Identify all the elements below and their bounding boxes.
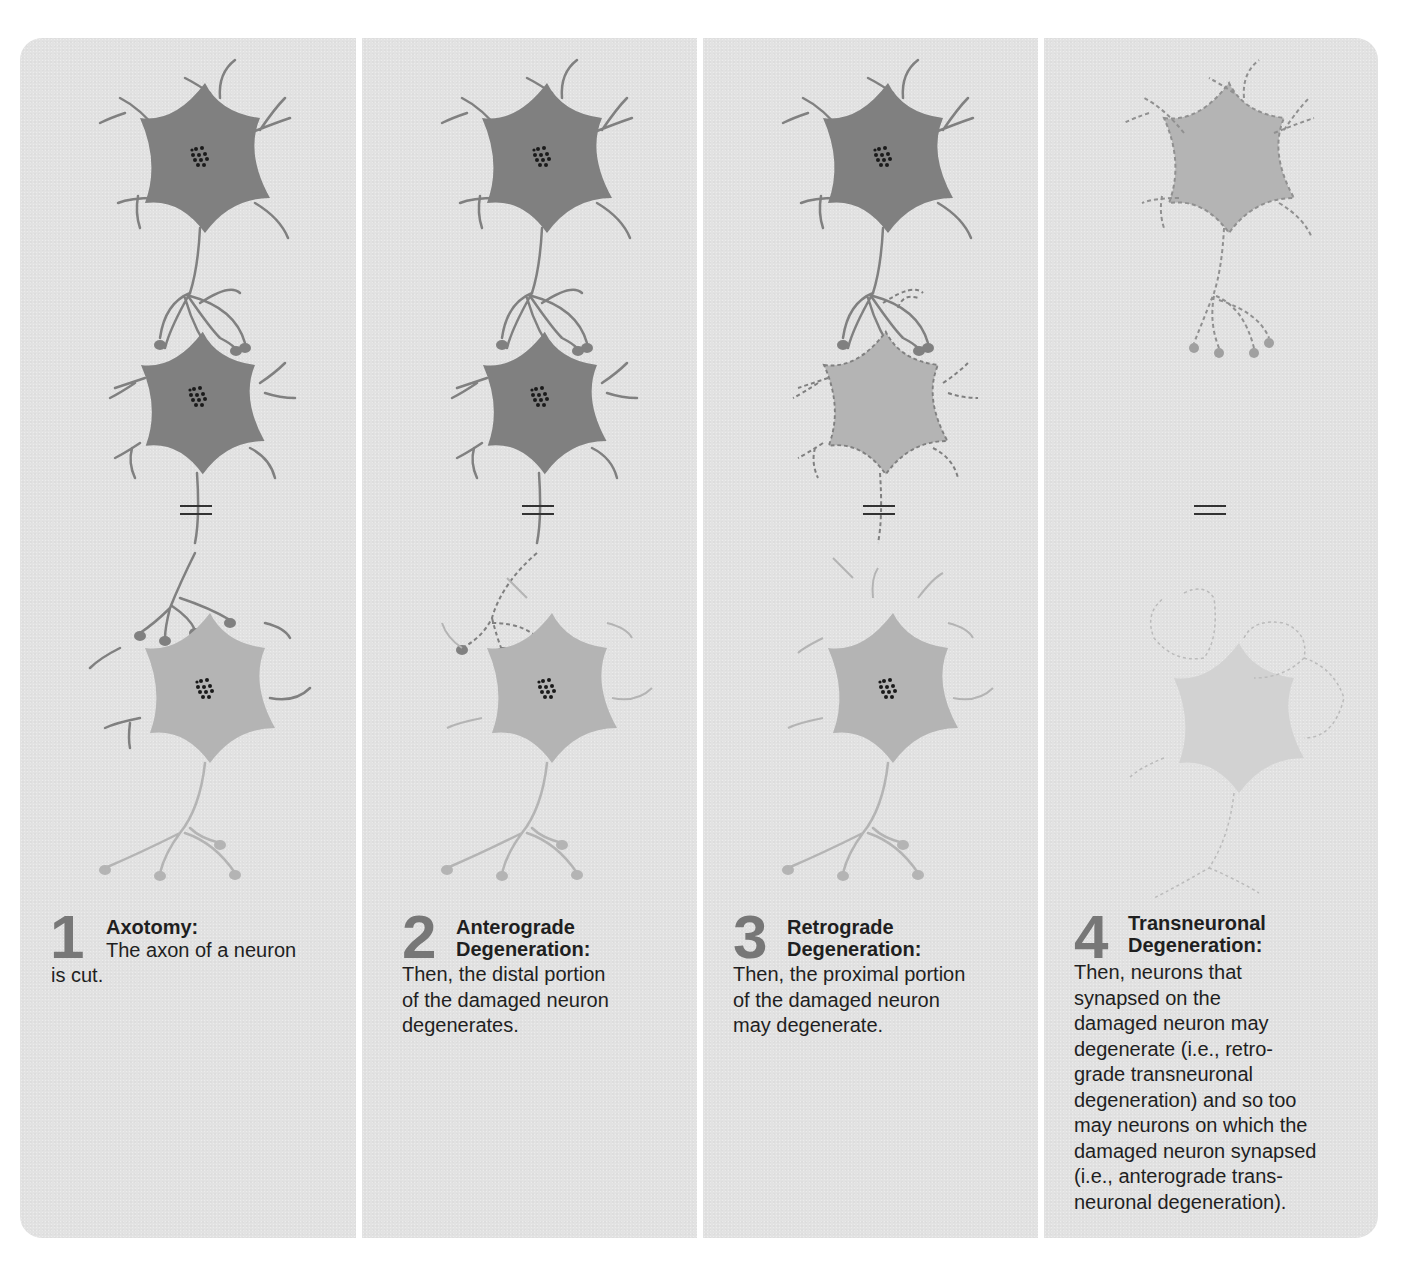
- step-number: 2: [402, 906, 436, 968]
- step-body-line: may degenerate.: [733, 1013, 965, 1039]
- step-body: Then, neurons that synapsed on the damag…: [1074, 960, 1316, 1215]
- step-title-line2: Degeneration:: [456, 938, 590, 960]
- axotomy-neuron-diagram: [20, 38, 356, 898]
- step-title-line2: Degeneration:: [787, 938, 921, 960]
- step-body-line: neuronal degeneration).: [1074, 1190, 1316, 1216]
- step-body-line: degeneration) and so too: [1074, 1088, 1316, 1114]
- figure-frame: 1 Axotomy: The axon of a neuron is cut.: [20, 38, 1378, 1238]
- step-body-line: degenerates.: [402, 1013, 609, 1039]
- anterograde-neuron-diagram: [362, 38, 697, 898]
- step-body-line: damaged neuron may: [1074, 1011, 1316, 1037]
- step-body-line: The axon of a neuron: [106, 938, 296, 964]
- step-body-line: of the damaged neuron: [402, 988, 609, 1014]
- step-body: Then, the distal portion of the damaged …: [402, 962, 609, 1039]
- step-body-line: degenerate (i.e., retro-: [1074, 1037, 1316, 1063]
- step-title: Axotomy:: [106, 916, 296, 938]
- step-body-line: (i.e., anterograde trans-: [1074, 1164, 1316, 1190]
- panel-anterograde-degeneration: 2 Anterograde Degeneration: Then, the di…: [362, 38, 697, 1238]
- step-body-line: may neurons on which the: [1074, 1113, 1316, 1139]
- step-body: Then, the proximal portion of the damage…: [733, 962, 965, 1039]
- step-body-line: Then, neurons that: [1074, 960, 1316, 986]
- step-body-line: synapsed on the: [1074, 986, 1316, 1012]
- panel-axotomy: 1 Axotomy: The axon of a neuron is cut.: [20, 38, 356, 1238]
- retrograde-neuron-diagram: [703, 38, 1038, 898]
- panel-transneuronal-degeneration: 4 Transneuronal Degeneration: Then, neur…: [1044, 38, 1378, 1238]
- step-body-line: damaged neuron synapsed: [1074, 1139, 1316, 1165]
- step-title-line1: Transneuronal: [1128, 912, 1266, 934]
- step-body-line: of the damaged neuron: [733, 988, 965, 1014]
- step-body-line: is cut.: [51, 963, 103, 989]
- step-body-line: Then, the distal portion: [402, 962, 609, 988]
- transneuronal-neuron-diagram: [1044, 38, 1378, 898]
- step-title-line1: Retrograde: [787, 916, 921, 938]
- panel-retrograde-degeneration: 3 Retrograde Degeneration: Then, the pro…: [703, 38, 1038, 1238]
- step-body-line: grade transneuronal: [1074, 1062, 1316, 1088]
- step-number: 3: [733, 906, 767, 968]
- step-number: 4: [1074, 906, 1108, 968]
- step-title-line1: Anterograde: [456, 916, 590, 938]
- step-number: 1: [50, 906, 84, 968]
- step-body-line: Then, the proximal portion: [733, 962, 965, 988]
- step-title-line2: Degeneration:: [1128, 934, 1266, 956]
